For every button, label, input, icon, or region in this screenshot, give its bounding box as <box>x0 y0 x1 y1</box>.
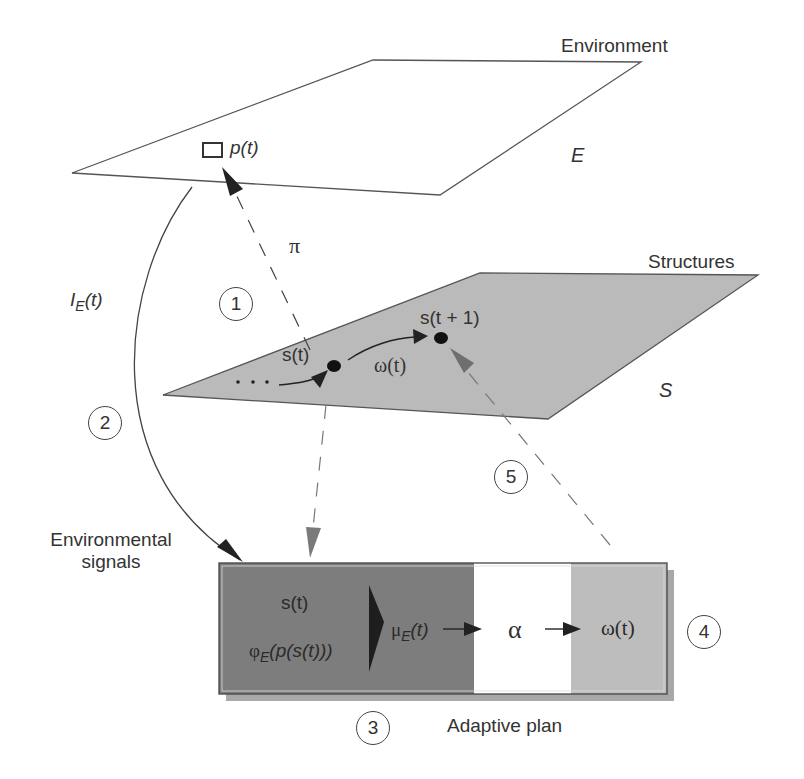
plan-alpha: α <box>508 617 522 643</box>
plan-payoff-main: φ <box>249 640 260 661</box>
next-state-dot <box>434 332 448 344</box>
environment-symbol: E <box>571 145 584 165</box>
next-state-label: s(t + 1) <box>420 308 480 327</box>
position-label-main: p <box>230 137 241 158</box>
signal-label-sub: E <box>75 298 84 314</box>
environment-title: Environment <box>561 36 668 55</box>
step-1-badge: 1 <box>219 287 253 321</box>
plan-mu-sub: E <box>401 628 410 644</box>
environmental-signals-line1: Environmental <box>38 529 184 551</box>
pi-dashed-line <box>234 190 310 350</box>
plan-payoff-sub: E <box>260 649 269 665</box>
environmental-signals-label: Environmental signals <box>38 529 184 573</box>
plan-payoff-arg: (p(s(t))) <box>269 640 332 661</box>
position-label-arg: (t) <box>241 137 259 158</box>
current-state-dot <box>327 360 341 372</box>
pi-label: π <box>289 235 300 257</box>
plan-payoff: φE(p(s(t))) <box>249 641 333 660</box>
step-2-badge: 2 <box>88 406 122 440</box>
omega-label: ω(t) <box>374 355 406 375</box>
structures-title: Structures <box>648 252 735 271</box>
environmental-signal-arrowhead-icon <box>217 539 243 562</box>
environment-plane <box>72 60 641 195</box>
diagram-canvas <box>0 0 804 779</box>
state-to-plan-dashed-line <box>313 405 326 528</box>
signal-label-arg: (t) <box>85 289 103 310</box>
adaptive-plan-label: Adaptive plan <box>447 716 562 735</box>
plan-mu: μE(t) <box>391 620 428 639</box>
structures-symbol: S <box>659 380 672 400</box>
plan-mu-arg: (t) <box>411 619 429 640</box>
plan-mu-main: μ <box>391 619 401 640</box>
step-5-badge: 5 <box>494 460 528 494</box>
plan-section-dark <box>219 563 474 694</box>
plan-input-state: s(t) <box>281 593 308 612</box>
current-state-label: s(t) <box>282 345 309 364</box>
state-to-plan-arrowhead-icon <box>306 527 321 558</box>
step-3-badge: 3 <box>356 711 390 745</box>
signal-label: IE(t) <box>70 290 103 309</box>
environmental-signals-line2: signals <box>38 551 184 573</box>
plan-output: ω(t) <box>601 618 635 639</box>
step-4-badge: 4 <box>687 615 721 649</box>
position-label: p(t) <box>230 138 259 157</box>
